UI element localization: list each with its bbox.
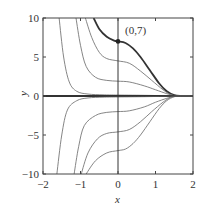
x-tick-label: −1: [75, 178, 87, 190]
x-tick-label: 2: [190, 178, 196, 190]
y-tick-label: 5: [34, 51, 40, 63]
y-tick-label: 0: [34, 90, 40, 102]
y-axis-label: y: [17, 91, 29, 97]
y-tick-label: −5: [27, 129, 39, 141]
y-tick-label: 10: [28, 12, 40, 24]
y-tick-label: −10: [22, 168, 40, 180]
x-tick-label: 0: [115, 178, 121, 190]
x-tick-label: 1: [153, 178, 159, 190]
solution-curve: [74, 96, 193, 174]
solution-curves-chart: −2−10121050−5−10 (0,7) x y: [0, 0, 205, 208]
solution-curve: [57, 96, 193, 174]
annotation-point: [116, 39, 121, 44]
x-axis-label: x: [114, 193, 120, 205]
solution-curve: [81, 96, 193, 174]
annotation-label: (0,7): [125, 24, 146, 37]
